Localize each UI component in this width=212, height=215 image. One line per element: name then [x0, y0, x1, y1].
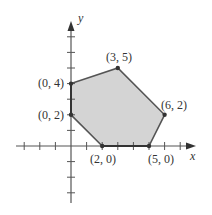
y-axis-arrow-icon: [68, 21, 75, 31]
vertex-label-0-4: (0, 4): [38, 76, 64, 90]
vertex-label-3-5: (3, 5): [106, 50, 132, 64]
vertex-label-2-0: (2, 0): [90, 152, 116, 166]
vertex-label-6-2: (6, 2): [161, 98, 187, 112]
y-axis-label: y: [77, 11, 84, 25]
vertex-label-0-2: (0, 2): [38, 108, 64, 122]
shaded-region: [71, 68, 165, 146]
vertex-label-5-0: (5, 0): [148, 152, 174, 166]
x-axis-label: x: [189, 149, 196, 163]
feasible-region-diagram: y x (3, 5) (0, 4) (0, 2) (6, 2) (2, 0) (…: [0, 0, 212, 215]
